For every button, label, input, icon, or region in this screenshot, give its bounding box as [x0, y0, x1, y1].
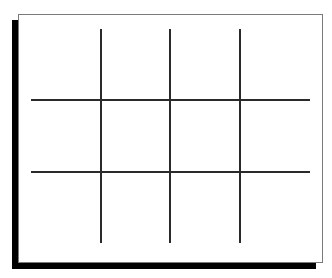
- grid-line-vertical-1: [100, 29, 102, 243]
- grid-line-vertical-2: [169, 29, 171, 243]
- grid-line-vertical-3: [239, 29, 241, 243]
- diagram-canvas: [0, 0, 332, 278]
- frame-shadow-bottom: [12, 262, 316, 269]
